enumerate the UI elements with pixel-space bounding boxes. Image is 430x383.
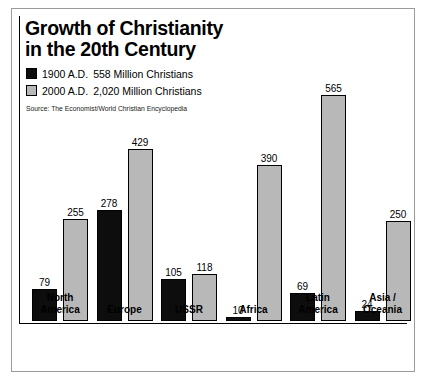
bar-group: 69565LatinAmerica	[287, 57, 349, 321]
bar-value-label: 255	[67, 207, 84, 218]
bar-group: 10390Africa	[223, 57, 285, 321]
category-label-line: Oceania	[343, 304, 423, 316]
bar-rect[interactable]	[321, 95, 346, 321]
bar-value-label: 105	[165, 267, 182, 278]
bar-column: 390	[257, 57, 282, 321]
bar-column: 250	[386, 57, 411, 321]
legend-item-2000: 2000 A.D. 2,020 Million Christians	[26, 83, 202, 98]
chart-frame: 79255NorthAmerica278429Europe105118USSR1…	[11, 8, 415, 372]
chart-legend: 1900 A.D. 558 Million Christians 2000 A.…	[26, 66, 202, 100]
chart-title: Growth of Christianity in the 20th Centu…	[25, 18, 325, 60]
y-axis-line	[19, 16, 20, 324]
bar-group: 24250Asia /Oceania	[352, 57, 414, 321]
bar-value-label: 118	[197, 262, 213, 273]
bar-column: 565	[321, 57, 346, 321]
legend-text-2000: 2,020 Million Christians	[93, 85, 202, 97]
legend-swatch-2000-icon	[26, 85, 37, 96]
bar-value-label: 250	[390, 209, 407, 220]
bar-column: 10	[226, 57, 251, 321]
bar-pair: 69565	[287, 57, 349, 321]
bar-value-label: 390	[261, 153, 278, 164]
source-note: Source: The Economist/World Christian En…	[26, 105, 187, 112]
bar-column: 69	[290, 57, 315, 321]
legend-item-1900: 1900 A.D. 558 Million Christians	[26, 66, 202, 81]
bar-pair: 10390	[223, 57, 285, 321]
plot-area: 79255NorthAmerica278429Europe105118USSR1…	[13, 10, 413, 370]
bar-rect[interactable]	[128, 149, 153, 321]
x-axis-baseline	[19, 323, 407, 324]
bar-rect[interactable]	[226, 317, 251, 321]
category-label-line: Asia /	[343, 292, 423, 304]
bar-value-label: 79	[39, 277, 50, 288]
category-label: Asia /Oceania	[343, 292, 423, 315]
legend-text-1900: 558 Million Christians	[93, 68, 193, 80]
bar-value-label: 278	[101, 198, 118, 209]
chart-title-line-1: Growth of Christianity	[25, 18, 325, 39]
bar-value-label: 429	[132, 137, 149, 148]
category-label-line: North	[20, 292, 100, 304]
bar-column: 24	[355, 57, 380, 321]
legend-year-1900: 1900 A.D.	[42, 68, 88, 80]
bar-value-label: 69	[297, 281, 308, 292]
legend-year-2000: 2000 A.D.	[42, 85, 88, 97]
bar-pair: 24250	[352, 57, 414, 321]
chart-title-line-2: in the 20th Century	[25, 39, 325, 60]
bar-value-label: 565	[325, 83, 342, 94]
legend-swatch-1900-icon	[26, 68, 37, 79]
